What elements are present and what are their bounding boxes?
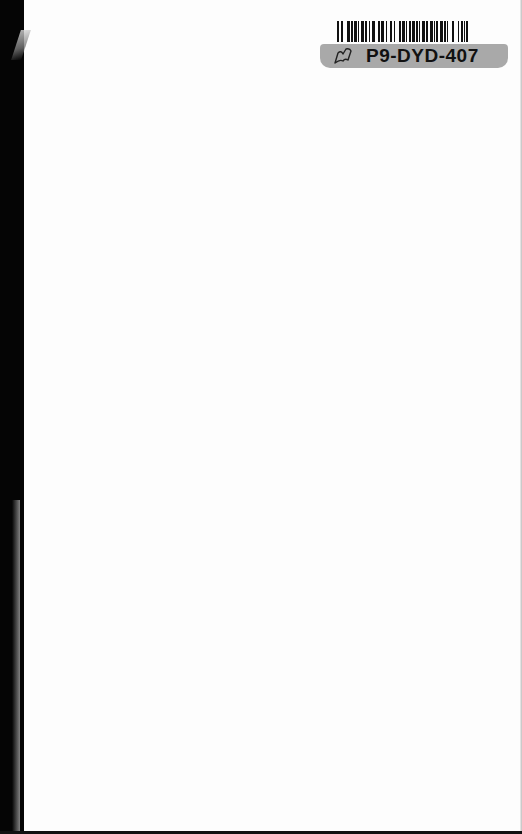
book-outline-icon — [330, 47, 356, 65]
item-code: P9-DYD-407 — [366, 45, 479, 67]
scanned-page: P9-DYD-407 — [0, 0, 522, 834]
barcode-sticker: P9-DYD-407 — [318, 18, 510, 70]
barcode-icon — [337, 21, 490, 42]
sticker-label: P9-DYD-407 — [320, 44, 508, 68]
spine-frayed-edge — [12, 500, 20, 834]
